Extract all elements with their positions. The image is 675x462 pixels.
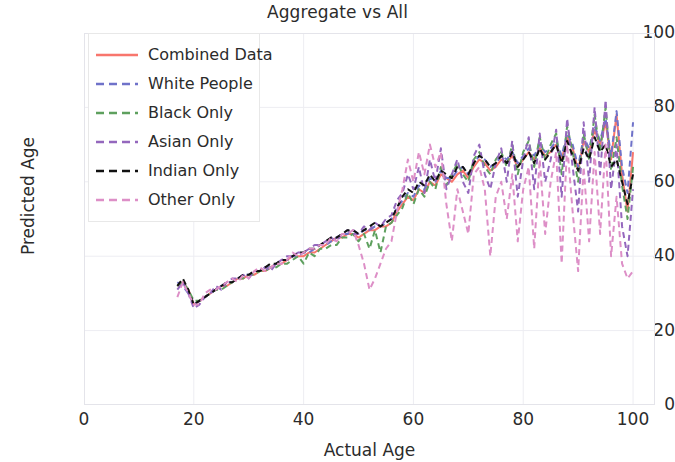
x-tick-label: 60 — [383, 411, 443, 428]
legend-item[interactable]: Combined Data — [95, 40, 253, 69]
chart-figure: Aggregate vs All Predicted Age Actual Ag… — [0, 0, 675, 462]
chart-title: Aggregate vs All — [0, 2, 675, 22]
x-tick-label: 20 — [164, 411, 224, 428]
x-tick-label: 100 — [603, 411, 663, 428]
legend-item[interactable]: Indian Only — [95, 156, 253, 185]
legend-item[interactable]: Black Only — [95, 98, 253, 127]
legend-line-icon — [95, 164, 139, 178]
legend-item[interactable]: Asian Only — [95, 127, 253, 156]
x-axis-label: Actual Age — [84, 440, 655, 460]
legend-label: Other Only — [148, 190, 235, 209]
legend-line-icon — [95, 135, 139, 149]
x-tick-label: 0 — [54, 411, 114, 428]
x-tick-label: 80 — [493, 411, 553, 428]
legend-label: Black Only — [148, 103, 233, 122]
legend-line-icon — [95, 77, 139, 91]
legend-line-icon — [95, 193, 139, 207]
y-axis-label: Predicted Age — [18, 106, 38, 286]
legend-line-icon — [95, 106, 139, 120]
legend-label: Combined Data — [148, 45, 273, 64]
legend-item[interactable]: White People — [95, 69, 253, 98]
legend-item[interactable]: Other Only — [95, 185, 253, 214]
legend-label: Indian Only — [148, 161, 239, 180]
legend-label: Asian Only — [148, 132, 233, 151]
legend-label: White People — [148, 74, 253, 93]
chart-legend: Combined DataWhite PeopleBlack OnlyAsian… — [88, 33, 260, 222]
plot-area: Combined DataWhite PeopleBlack OnlyAsian… — [84, 33, 655, 405]
legend-line-icon — [95, 48, 139, 62]
x-tick-label: 40 — [274, 411, 334, 428]
